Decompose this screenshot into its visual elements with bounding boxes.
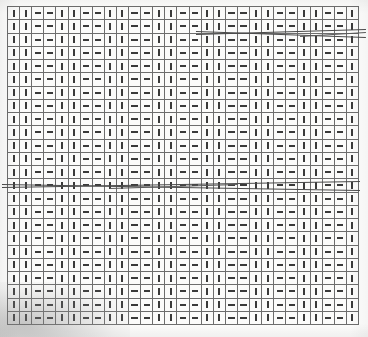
horizontal-dash-glyph: [228, 264, 234, 266]
lattice-cell: [153, 259, 164, 271]
lattice-cell: [165, 100, 176, 112]
lattice-cell: [274, 166, 285, 178]
lattice-cell: [226, 299, 237, 311]
lattice-cell: [335, 193, 346, 205]
lattice-cell: [56, 193, 67, 205]
lattice-cell: [141, 179, 152, 191]
horizontal-dash-glyph: [83, 277, 89, 279]
lattice-cell: [165, 126, 176, 138]
vertical-bar-glyph: [267, 288, 269, 295]
horizontal-dash-glyph: [325, 290, 331, 292]
lattice-cell: [56, 7, 67, 19]
lattice-cell: [250, 140, 261, 152]
horizontal-dash-glyph: [228, 211, 234, 213]
vertical-bar-glyph: [170, 129, 172, 136]
lattice-cell: [323, 232, 334, 244]
lattice-cell: [105, 20, 116, 32]
vertical-bar-glyph: [255, 129, 257, 136]
vertical-bar-glyph: [315, 301, 317, 308]
horizontal-dash-glyph: [47, 224, 53, 226]
lattice-cell: [8, 60, 19, 72]
lattice-cell: [262, 272, 273, 284]
vertical-bar-glyph: [121, 275, 123, 282]
vertical-bar-glyph: [109, 314, 111, 321]
lattice-cell: [250, 166, 261, 178]
lattice-cell: [190, 232, 201, 244]
vertical-bar-glyph: [206, 314, 208, 321]
lattice-cell: [44, 179, 55, 191]
vertical-bar-glyph: [121, 89, 123, 96]
lattice-cell: [214, 34, 225, 46]
lattice-cell: [274, 47, 285, 59]
lattice-cell: [32, 232, 43, 244]
lattice-cell: [347, 113, 358, 125]
lattice-cell: [214, 7, 225, 19]
lattice-cell: [238, 259, 249, 271]
horizontal-dash-glyph: [35, 131, 41, 133]
lattice-cell: [129, 140, 140, 152]
vertical-bar-glyph: [267, 222, 269, 229]
lattice-cell: [274, 232, 285, 244]
horizontal-dash-glyph: [47, 105, 53, 107]
lattice-cell: [286, 272, 297, 284]
vertical-bar-glyph: [351, 222, 353, 229]
lattice-cell: [81, 113, 92, 125]
lattice-cell: [226, 126, 237, 138]
lattice-cell: [56, 34, 67, 46]
horizontal-dash-glyph: [144, 290, 150, 292]
lattice-cell: [129, 246, 140, 258]
vertical-bar-glyph: [315, 36, 317, 43]
vertical-bar-glyph: [170, 102, 172, 109]
horizontal-dash-glyph: [144, 39, 150, 41]
lattice-cell: [214, 60, 225, 72]
lattice-cell: [105, 140, 116, 152]
lattice-cell: [81, 47, 92, 59]
vertical-bar-glyph: [13, 36, 15, 43]
vertical-bar-glyph: [13, 248, 15, 255]
lattice-cell: [81, 34, 92, 46]
horizontal-dash-glyph: [131, 39, 137, 41]
horizontal-dash-glyph: [47, 211, 53, 213]
lattice-cell: [81, 100, 92, 112]
lattice-cell: [20, 113, 31, 125]
lattice-cell: [8, 285, 19, 297]
horizontal-dash-glyph: [180, 304, 186, 306]
vertical-bar-glyph: [109, 169, 111, 176]
lattice-cell: [274, 100, 285, 112]
lattice-cell: [56, 60, 67, 72]
horizontal-dash-glyph: [131, 118, 137, 120]
vertical-bar-glyph: [351, 102, 353, 109]
vertical-bar-glyph: [218, 102, 220, 109]
vertical-bar-glyph: [61, 89, 63, 96]
horizontal-dash-glyph: [240, 92, 246, 94]
lattice-cell: [81, 126, 92, 138]
vertical-bar-glyph: [218, 116, 220, 123]
vertical-bar-glyph: [158, 301, 160, 308]
lattice-cell: [93, 259, 104, 271]
lattice-cell: [177, 73, 188, 85]
lattice-cell: [81, 179, 92, 191]
lattice-cell: [226, 7, 237, 19]
lattice-cell: [165, 312, 176, 324]
vertical-bar-glyph: [109, 76, 111, 83]
horizontal-dash-glyph: [180, 277, 186, 279]
horizontal-dash-glyph: [180, 39, 186, 41]
horizontal-dash-glyph: [228, 12, 234, 14]
lattice-cell: [262, 7, 273, 19]
horizontal-dash-glyph: [289, 65, 295, 67]
horizontal-dash-glyph: [240, 12, 246, 14]
lattice-cell: [298, 153, 309, 165]
lattice-cell: [286, 285, 297, 297]
horizontal-dash-glyph: [337, 211, 343, 213]
horizontal-dash-glyph: [83, 12, 89, 14]
lattice-cell: [117, 20, 128, 32]
vertical-bar-glyph: [25, 129, 27, 136]
vertical-bar-glyph: [61, 235, 63, 242]
horizontal-dash-glyph: [228, 158, 234, 160]
vertical-bar-glyph: [158, 155, 160, 162]
lattice-cell: [32, 312, 43, 324]
vertical-bar-glyph: [158, 235, 160, 242]
vertical-bar-glyph: [13, 235, 15, 242]
vertical-bar-glyph: [351, 301, 353, 308]
lattice-cell: [323, 100, 334, 112]
